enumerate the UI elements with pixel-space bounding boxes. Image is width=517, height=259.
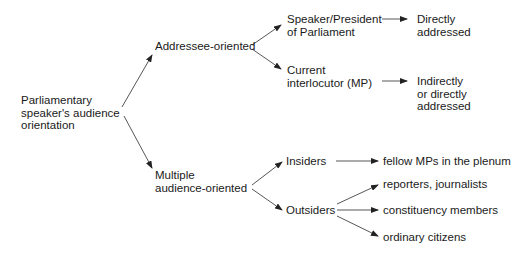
node-label-line: reporters, journalists — [383, 178, 487, 191]
node-label-line: ordinary citizens — [383, 231, 466, 244]
node-ordinary-citizens: ordinary citizens — [383, 231, 466, 244]
node-label-line: addressed — [417, 100, 471, 113]
node-fellow-mps: fellow MPs in the plenum — [383, 155, 511, 168]
node-label-line: constituency members — [383, 204, 498, 217]
node-label-line: Indirectly — [417, 75, 471, 88]
node-current-interlocutor: Current interlocutor (MP) — [287, 64, 372, 89]
edge-outsiders-reporters — [337, 185, 378, 204]
node-label-line: Parliamentary — [21, 94, 120, 107]
edge-root-multiple — [124, 116, 152, 168]
node-label-line: of Parliament — [287, 26, 382, 39]
edge-outsiders-citizens — [337, 216, 378, 236]
node-label-line: Multiple — [155, 169, 247, 182]
node-label-line: or directly — [417, 88, 471, 101]
node-label-line: Outsiders — [286, 204, 335, 217]
node-label-line: orientation — [21, 119, 120, 132]
node-label-line: Current — [287, 64, 372, 77]
edge-addressee-speaker — [252, 25, 281, 45]
node-label-line: interlocutor (MP) — [287, 77, 372, 90]
node-constituency-members: constituency members — [383, 204, 498, 217]
node-reporters-journalists: reporters, journalists — [383, 178, 487, 191]
node-root-audience-orientation: Parliamentary speaker's audience orienta… — [21, 94, 120, 132]
edge-multiple-insiders — [252, 162, 282, 185]
node-speaker-president: Speaker/President of Parliament — [287, 13, 382, 38]
node-addressee-oriented: Addressee-oriented — [155, 40, 255, 53]
node-directly-addressed: Directly addressed — [417, 13, 471, 38]
node-label-line: fellow MPs in the plenum — [383, 155, 511, 168]
node-label-line: audience-oriented — [155, 182, 247, 195]
node-indirectly-or-directly-addressed: Indirectly or directly addressed — [417, 75, 471, 113]
node-label-line: addressed — [417, 26, 471, 39]
node-outsiders: Outsiders — [286, 204, 335, 217]
node-insiders: Insiders — [286, 155, 326, 168]
node-label-line: Addressee-oriented — [155, 40, 255, 53]
edge-root-addressee — [122, 55, 152, 107]
node-label-line: speaker's audience — [21, 107, 120, 120]
node-label-line: Speaker/President — [287, 13, 382, 26]
node-label-line: Directly — [417, 13, 471, 26]
edge-addressee-interlocutor — [252, 49, 281, 69]
node-label-line: Insiders — [286, 155, 326, 168]
edge-multiple-outsiders — [252, 189, 282, 210]
node-multiple-audience-oriented: Multiple audience-oriented — [155, 169, 247, 194]
